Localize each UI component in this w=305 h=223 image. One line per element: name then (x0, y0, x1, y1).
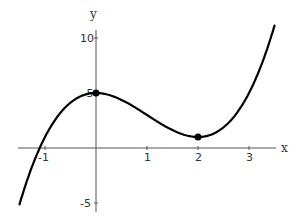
y-tick-label: -5 (80, 197, 91, 210)
function-plot: -1123-5510 x y (0, 0, 305, 223)
x-tick-label: -1 (38, 151, 49, 164)
x-tick-label: 1 (144, 151, 151, 164)
y-tick-label: 10 (80, 32, 94, 45)
axes: -1123-5510 (18, 30, 276, 212)
x-tick-label: 2 (195, 151, 202, 164)
y-axis-label: y (89, 7, 97, 21)
function-curve (20, 26, 275, 205)
extremum-point (195, 134, 202, 141)
x-axis-label: x (281, 141, 288, 155)
x-tick-label: 3 (246, 151, 253, 164)
extremum-point (93, 90, 100, 97)
